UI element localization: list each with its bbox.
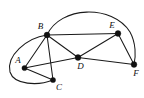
edge-E-F (118, 34, 134, 65)
vertex-label-D: D (76, 61, 84, 71)
vertex-B (44, 32, 50, 38)
graph-figure: A B C D E F (0, 0, 144, 98)
vertex-D (75, 55, 81, 61)
edge-group (9, 12, 135, 83)
vertex-A (22, 65, 27, 70)
edge-B-E (47, 34, 118, 36)
vertex-F (131, 62, 137, 68)
vertex-E (115, 31, 121, 37)
vertex-label-C: C (56, 82, 63, 92)
edge-A-B (25, 35, 48, 68)
vertex-group (22, 31, 137, 83)
edge-A-C (25, 68, 54, 80)
vertex-label-B: B (38, 21, 44, 31)
vertex-label-E: E (108, 20, 115, 30)
edge-D-F (78, 58, 134, 65)
vertex-C (50, 77, 55, 82)
graph-canvas: A B C D E F (0, 0, 144, 98)
vertex-label-A: A (14, 55, 21, 65)
edge-B-D (47, 35, 78, 58)
edge-B-C (47, 35, 53, 80)
edge-D-E (78, 34, 118, 58)
vertex-label-F: F (132, 68, 139, 78)
edge-B-F-curve (47, 12, 135, 64)
